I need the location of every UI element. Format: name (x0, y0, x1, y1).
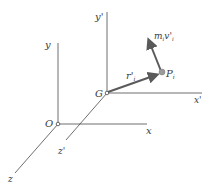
origin-o-label: O (45, 118, 53, 129)
x-prime-axis-label: x' (194, 95, 202, 105)
momentum-vector: miv'i (149, 31, 174, 71)
x-axis-label: x (146, 125, 152, 136)
rigid-body-momentum-diagram: O y x z G y' x' z' r'i miv'i Pi (0, 0, 214, 187)
position-vector: r'i (108, 70, 156, 92)
origin-g-label: G (95, 88, 103, 99)
y-prime-axis-label: y' (94, 11, 103, 22)
origin-o-marker (56, 122, 60, 126)
z-axis-label: z (7, 174, 13, 184)
z-axis (15, 124, 58, 173)
momentum-vector-label: miv'i (154, 31, 174, 42)
momentum-vector-arrow (149, 41, 161, 71)
particle-p-i: Pi (159, 68, 175, 80)
particle-marker (159, 69, 165, 75)
position-vector-label: r'i (126, 70, 136, 82)
z-prime-axis-label: z' (57, 146, 65, 156)
y-axis-label: y (44, 39, 51, 50)
particle-label: Pi (165, 68, 175, 80)
fixed-frame: O y x z (7, 39, 152, 184)
z-prime-axis (66, 93, 107, 140)
